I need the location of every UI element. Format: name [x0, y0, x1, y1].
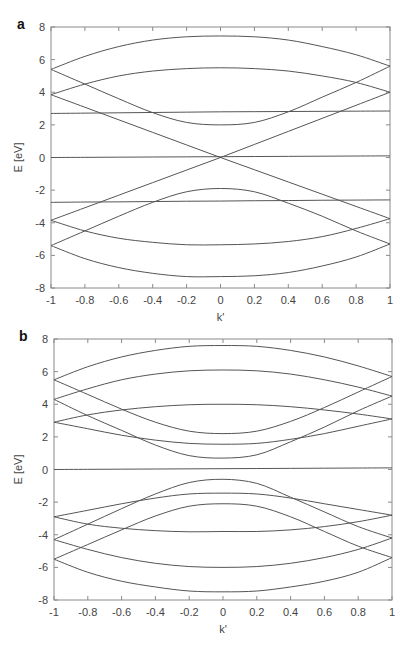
x-tick-label: -0.2	[180, 606, 199, 618]
energy-band-line	[54, 493, 392, 517]
y-tick-label: -4	[38, 529, 48, 541]
energy-band-line	[54, 404, 392, 422]
energy-band-line	[54, 468, 392, 470]
x-axis-label: k'	[219, 623, 227, 635]
y-tick-label: 4	[42, 398, 48, 410]
energy-band-line	[54, 346, 392, 380]
y-tick-label: 0	[39, 152, 45, 164]
y-tick-label: 8	[42, 333, 48, 345]
y-tick-label: 2	[42, 431, 48, 443]
x-tick-label: 0.8	[351, 606, 366, 618]
energy-band-line	[54, 370, 392, 399]
y-tick-label: -6	[35, 249, 45, 261]
x-tick-label: -0.2	[177, 294, 196, 306]
y-axis-label: E [eV]	[12, 455, 24, 485]
y-tick-label: -2	[35, 184, 45, 196]
y-tick-label: 6	[39, 54, 45, 66]
x-tick-label: 1	[389, 606, 395, 618]
x-tick-label: -0.4	[143, 294, 162, 306]
energy-band-line	[54, 558, 392, 592]
energy-band-line	[51, 188, 390, 245]
y-tick-label: -6	[38, 561, 48, 573]
energy-band-line	[54, 377, 392, 434]
x-tick-label: 0.2	[249, 606, 264, 618]
energy-band-line	[54, 538, 392, 567]
energy-band-line	[54, 479, 392, 539]
x-tick-label: 0.6	[317, 606, 332, 618]
energy-band-line	[54, 515, 392, 532]
x-tick-label: 0.6	[315, 294, 330, 306]
x-tick-label: -0.8	[75, 294, 94, 306]
energy-band-line	[51, 36, 390, 69]
energy-band-line	[51, 244, 390, 277]
y-tick-label: -4	[35, 217, 45, 229]
x-tick-label: -1	[46, 294, 56, 306]
y-tick-label: 8	[39, 21, 45, 33]
x-tick-label: 0.4	[281, 294, 296, 306]
y-tick-label: 4	[39, 86, 45, 98]
x-tick-label: 0.2	[247, 294, 262, 306]
x-tick-label: 0.8	[348, 294, 363, 306]
y-tick-label: 6	[42, 366, 48, 378]
x-tick-label: -0.6	[112, 606, 131, 618]
y-tick-label: -8	[35, 282, 45, 294]
y-tick-label: -8	[38, 594, 48, 606]
y-tick-label: 0	[42, 464, 48, 476]
panel-a: a -1-0.8-0.6-0.4-0.200.20.40.60.8186420-…	[0, 0, 411, 324]
y-tick-label: 2	[39, 119, 45, 131]
x-tick-label: 1	[387, 294, 393, 306]
x-tick-label: -0.8	[78, 606, 97, 618]
y-tick-label: -2	[38, 496, 48, 508]
energy-band-line	[51, 219, 390, 245]
panel-b: b -1-0.8-0.6-0.4-0.200.20.40.60.8186420-…	[0, 312, 411, 648]
band-structure-chart-b: -1-0.8-0.6-0.4-0.200.20.40.60.8186420-2-…	[0, 312, 411, 648]
energy-band-line	[54, 396, 392, 458]
energy-band-line	[51, 68, 390, 95]
energy-band-line	[51, 66, 390, 125]
x-tick-label: 0	[220, 606, 226, 618]
x-tick-label: -1	[49, 606, 59, 618]
x-tick-label: 0	[217, 294, 223, 306]
x-tick-label: -0.4	[146, 606, 165, 618]
x-tick-label: 0.4	[283, 606, 298, 618]
band-structure-chart-a: -1-0.8-0.6-0.4-0.200.20.40.60.8186420-2-…	[0, 0, 411, 324]
x-tick-label: -0.6	[109, 294, 128, 306]
y-axis-label: E [eV]	[12, 143, 24, 173]
